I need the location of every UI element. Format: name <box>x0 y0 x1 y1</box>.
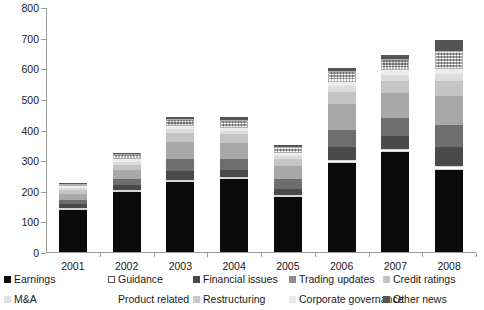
x-axis-tick <box>315 253 316 257</box>
y-axis-tick <box>41 192 46 193</box>
bar-segment[interactable] <box>381 93 409 118</box>
bar-segment[interactable] <box>381 118 409 136</box>
legend-item[interactable]: Other news <box>383 294 447 305</box>
bar-segment[interactable] <box>381 136 409 150</box>
bar-stack <box>59 183 87 252</box>
legend-item[interactable]: M&A <box>4 294 37 305</box>
bar-segment[interactable] <box>166 159 194 171</box>
bar-segment[interactable] <box>220 120 248 128</box>
legend-item[interactable]: Guidance <box>108 274 163 285</box>
legend-item[interactable]: Product related <box>108 294 189 305</box>
bar-stack <box>113 153 141 252</box>
legend-label: Restructuring <box>203 294 265 305</box>
legend-swatch-icon <box>193 276 200 283</box>
legend-item[interactable]: Credit ratings <box>383 274 455 285</box>
x-axis-tick <box>476 253 477 257</box>
x-axis-tick <box>154 253 155 257</box>
bar-segment[interactable] <box>435 125 463 147</box>
bar-stack <box>328 68 356 252</box>
bar-segment[interactable] <box>435 51 463 69</box>
bar-segment[interactable] <box>435 74 463 81</box>
legend-item[interactable]: Trading updates <box>289 274 375 285</box>
bar-segment[interactable] <box>166 142 194 159</box>
bar-segment[interactable] <box>220 159 248 170</box>
bar-segment[interactable] <box>435 96 463 125</box>
bar-segment[interactable] <box>435 81 463 96</box>
legend-swatch-icon <box>289 296 296 303</box>
y-axis-tick <box>41 161 46 162</box>
bar-segment[interactable] <box>220 134 248 143</box>
legend-swatch-icon <box>4 296 11 303</box>
legend-swatch-icon <box>4 276 11 283</box>
x-axis-label: 2006 <box>330 261 353 272</box>
y-axis-tick <box>41 100 46 101</box>
y-axis-line <box>46 8 47 253</box>
y-axis-label: 500 <box>21 95 39 106</box>
x-axis-label: 2005 <box>276 261 299 272</box>
bar-segment[interactable] <box>381 81 409 93</box>
bar-segment[interactable] <box>435 147 463 166</box>
bar-segment[interactable] <box>274 179 302 189</box>
y-axis-tick <box>41 222 46 223</box>
bar-segment[interactable] <box>274 147 302 154</box>
x-axis-tick <box>422 253 423 257</box>
bar-segment[interactable] <box>381 152 409 252</box>
y-axis-label: 200 <box>21 187 39 198</box>
bar-segment[interactable] <box>381 59 409 71</box>
legend-item[interactable]: Restructuring <box>193 294 265 305</box>
legend-swatch-icon <box>108 296 115 303</box>
bar-segment[interactable] <box>328 104 356 130</box>
legend-label: Trading updates <box>299 274 375 285</box>
y-axis-tick <box>41 69 46 70</box>
x-axis-label: 2002 <box>115 261 138 272</box>
bar-segment[interactable] <box>328 163 356 252</box>
bar-segment[interactable] <box>113 192 141 252</box>
bar-segment[interactable] <box>274 159 302 166</box>
legend-label: Guidance <box>118 274 163 285</box>
bar-segment[interactable] <box>220 143 248 159</box>
chart-legend: EarningsGuidanceFinancial issuesTrading … <box>0 272 484 310</box>
y-axis-label: 700 <box>21 33 39 44</box>
y-axis-label: 300 <box>21 156 39 167</box>
legend-label: Financial issues <box>203 274 278 285</box>
bar-stack <box>381 55 409 252</box>
legend-label: M&A <box>14 294 37 305</box>
legend-item[interactable]: Earnings <box>4 274 55 285</box>
bar-segment[interactable] <box>435 170 463 252</box>
bar-segment[interactable] <box>328 92 356 104</box>
legend-swatch-icon <box>383 296 390 303</box>
bar-segment[interactable] <box>166 171 194 180</box>
x-axis-tick <box>207 253 208 257</box>
y-axis-tick <box>41 8 46 9</box>
legend-swatch-icon <box>289 276 296 283</box>
bar-segment[interactable] <box>113 170 141 179</box>
bar-segment[interactable] <box>274 166 302 179</box>
x-axis-label: 2001 <box>61 261 84 272</box>
legend-swatch-icon <box>383 276 390 283</box>
bar-segment[interactable] <box>166 182 194 252</box>
legend-label: Other news <box>393 294 447 305</box>
legend-label: Credit ratings <box>393 274 455 285</box>
bar-segment[interactable] <box>59 210 87 252</box>
x-axis-tick <box>100 253 101 257</box>
x-axis-label: 2008 <box>437 261 460 272</box>
y-axis-label: 400 <box>21 125 39 136</box>
y-axis-label: 100 <box>21 217 39 228</box>
y-axis-label: 800 <box>21 3 39 14</box>
bar-segment[interactable] <box>328 147 356 160</box>
x-axis-label: 2003 <box>169 261 192 272</box>
bar-segment[interactable] <box>328 130 356 147</box>
x-axis-label: 2004 <box>222 261 245 272</box>
bar-segment[interactable] <box>220 179 248 252</box>
stacked-bar-chart: 0100200300400500600700800 20012002200320… <box>0 0 484 310</box>
y-axis-label: 0 <box>33 248 39 259</box>
y-axis-label: 600 <box>21 64 39 75</box>
bar-segment[interactable] <box>274 197 302 252</box>
bar-segment[interactable] <box>220 170 248 177</box>
bar-segment[interactable] <box>166 119 194 126</box>
bar-segment[interactable] <box>166 133 194 142</box>
bar-segment[interactable] <box>435 40 463 51</box>
legend-label: Product related <box>118 294 189 305</box>
bar-segment[interactable] <box>328 71 356 82</box>
legend-item[interactable]: Financial issues <box>193 274 278 285</box>
